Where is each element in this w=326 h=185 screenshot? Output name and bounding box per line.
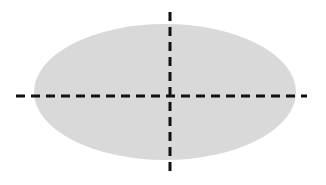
grey-ellipse [34, 24, 296, 160]
ellipse-diagram [0, 0, 326, 185]
